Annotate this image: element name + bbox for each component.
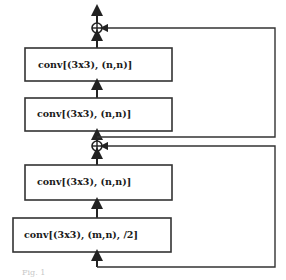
conv-block-3-label: conv[(3x3), (n,n)] bbox=[37, 176, 131, 188]
add-top-icon bbox=[92, 23, 102, 33]
conv-block-4-label: conv[(3x3), (m,n), /2] bbox=[24, 229, 138, 241]
conv-block-1: conv[(3x3), (n,n)] bbox=[25, 48, 172, 81]
figure-caption: Fig. 1 bbox=[22, 268, 45, 277]
conv-block-2-label: conv[(3x3), (n,n)] bbox=[37, 108, 131, 120]
conv-block-4: conv[(3x3), (m,n), /2] bbox=[13, 218, 171, 252]
conv-block-3: conv[(3x3), (n,n)] bbox=[25, 165, 172, 200]
add-middle-icon bbox=[92, 141, 102, 151]
conv-block-2: conv[(3x3), (n,n)] bbox=[25, 98, 172, 131]
residual-block-diagram: conv[(3x3), (n,n)] conv[(3x3), (n,n)] co… bbox=[0, 0, 286, 280]
conv-block-1-label: conv[(3x3), (n,n)] bbox=[38, 59, 132, 71]
